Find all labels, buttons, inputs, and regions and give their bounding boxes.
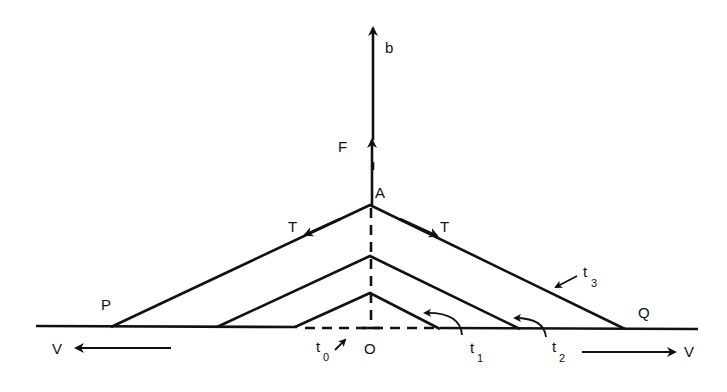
label-t2: t — [552, 338, 557, 355]
label-F: F — [338, 138, 347, 155]
label-t0: t — [316, 338, 321, 355]
label-t0-sub: 0 — [323, 351, 329, 363]
label-O: O — [364, 340, 376, 357]
tension-arrow-right — [400, 219, 437, 236]
label-t3: t — [583, 263, 588, 280]
vertical-axis — [362, 28, 380, 328]
tension-arrow-left — [305, 219, 340, 235]
label-V-left: V — [52, 340, 62, 357]
label-P: P — [101, 296, 111, 313]
t0-pointer — [335, 340, 345, 350]
label-t1-sub: 1 — [477, 352, 483, 364]
label-T-left: T — [288, 218, 297, 235]
label-V-right: V — [684, 343, 694, 360]
label-t2-sub: 2 — [559, 352, 565, 364]
string-shape-t1 — [295, 293, 440, 329]
t3-pointer — [556, 276, 577, 287]
string-kink-diagram: b F A T T P Q O V V t 0 t 1 t 2 t 3 — [0, 0, 727, 392]
label-t1: t — [470, 339, 475, 356]
label-T-right: T — [440, 218, 449, 235]
string-shape-t3 — [111, 205, 625, 329]
label-Q: Q — [638, 304, 650, 321]
label-b: b — [385, 39, 393, 56]
label-A: A — [375, 184, 385, 201]
label-t3-sub: 3 — [591, 277, 597, 289]
